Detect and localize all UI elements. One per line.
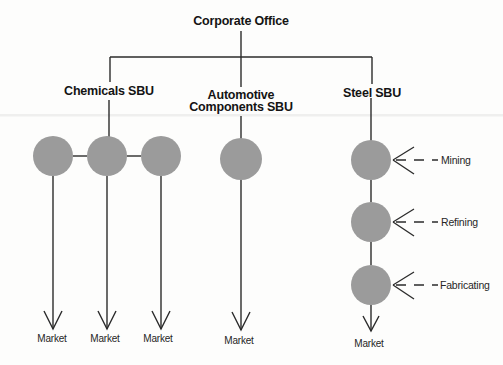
automotive-sbu-label: Automotive Components SBU xyxy=(189,89,292,113)
fabricating-label: Fabricating xyxy=(440,279,490,291)
refining-arrowhead-lower xyxy=(393,222,414,236)
market-label-5: Market xyxy=(354,338,383,349)
automotive-unit-circle xyxy=(220,138,262,180)
steel-unit-circle-refining xyxy=(351,202,391,242)
market-label-1: Market xyxy=(37,333,66,344)
refining-label: Refining xyxy=(441,216,478,228)
chemicals-unit-circle-3 xyxy=(141,136,181,176)
mining-arrowhead-upper xyxy=(393,147,414,160)
corporate-office-label: Corporate Office xyxy=(193,15,288,27)
org-chart-figure: Corporate Office Chemicals SBU Automotiv… xyxy=(0,0,503,365)
steel-unit-circle-mining xyxy=(351,140,391,180)
chemicals-unit-circle-2 xyxy=(87,136,127,176)
process-input-arrows xyxy=(393,147,438,299)
mining-label: Mining xyxy=(441,154,471,166)
automotive-sbu-label-line2: Components SBU xyxy=(189,101,292,113)
scan-artifact-band xyxy=(0,114,503,117)
market-label-4: Market xyxy=(224,335,253,346)
chemicals-unit-circle-1 xyxy=(33,136,73,176)
diagram-canvas xyxy=(0,0,503,365)
business-unit-circles xyxy=(33,136,391,305)
fabricating-arrowhead-lower xyxy=(393,285,414,299)
steel-sbu-label: Steel SBU xyxy=(343,87,401,99)
steel-unit-circle-fabricating xyxy=(351,265,391,305)
refining-arrowhead-upper xyxy=(393,209,414,222)
fabricating-arrowhead-upper xyxy=(393,272,414,285)
market-label-2: Market xyxy=(90,333,119,344)
market-arrows xyxy=(44,176,379,331)
market-label-3: Market xyxy=(143,333,172,344)
mining-arrowhead-lower xyxy=(393,160,414,174)
chemicals-sbu-label: Chemicals SBU xyxy=(64,85,154,97)
